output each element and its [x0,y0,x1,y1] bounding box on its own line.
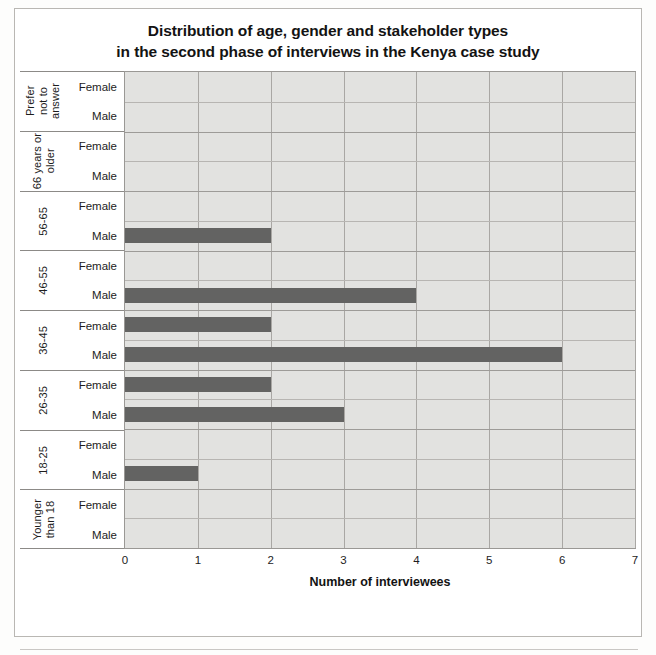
y-axis-group: 36-45FemaleMale [20,311,124,371]
horizontal-gridline [125,221,635,222]
horizontal-gridline [125,518,635,519]
x-axis-label: Number of interviewees [124,575,636,589]
y-axis-gender-labels: FemaleMale [66,490,124,550]
horizontal-gridline [125,340,635,341]
y-axis-gender-label: Female [66,132,117,161]
plot-area [124,71,636,549]
y-axis-gender-labels: FemaleMale [66,371,124,430]
x-axis-ticks: 01234567 [124,554,636,574]
horizontal-gridline [125,399,635,400]
bar [125,317,271,332]
y-axis-gender-label: Male [66,221,117,250]
y-axis-group: Younger than 18FemaleMale [20,490,124,550]
x-axis-tick-label: 3 [340,554,346,566]
y-axis-gender-label: Male [66,161,117,190]
chart-title-line-2: in the second phase of interviews in the… [15,41,641,62]
y-axis-gender-labels: FemaleMale [66,311,124,370]
y-axis-group-label-text: 46-55 [37,266,50,295]
horizontal-gridline [125,370,635,371]
horizontal-gridline [125,102,635,103]
x-axis-tick-label: 6 [559,554,565,566]
y-axis-gender-labels: FemaleMale [66,72,124,131]
y-axis-group: Prefer not to answerFemaleMale [20,72,124,132]
y-axis-group-label: Younger than 18 [20,490,66,550]
y-axis-group: 18-25FemaleMale [20,431,124,491]
chart-body: Prefer not to answerFemaleMale66 years o… [15,65,643,570]
y-axis-gender-label: Female [66,72,117,101]
y-axis-gender-label: Male [66,460,117,489]
x-axis-tick-label: 1 [195,554,201,566]
legend-divider [20,649,638,650]
horizontal-gridline [125,280,635,281]
y-axis-group-label: Prefer not to answer [20,72,66,131]
y-axis-gender-label: Female [66,311,117,340]
y-axis-gender-label: Female [66,371,117,400]
bar [125,228,271,243]
y-axis-gender-labels: FemaleMale [66,192,124,251]
y-axis-group-label: 18-25 [20,431,66,490]
horizontal-gridline [125,132,635,133]
y-axis-gender-label: Male [66,520,117,550]
bar [125,347,562,362]
y-axis-group: 26-35FemaleMale [20,371,124,431]
y-axis-gender-label: Male [66,101,117,130]
horizontal-gridline [125,310,635,311]
y-axis-gender-label: Female [66,192,117,221]
y-axis-gender-label: Male [66,340,117,369]
y-axis-group-label-text: 18-25 [37,446,50,475]
y-axis-gender-label: Female [66,490,117,520]
horizontal-gridline [125,191,635,192]
y-axis-group-label: 56-65 [20,192,66,251]
bar [125,466,198,481]
y-axis-group-label: 26-35 [20,371,66,430]
y-axis-group-label-text: Younger than 18 [31,499,56,540]
chart-figure: Distribution of age, gender and stakehol… [14,8,642,637]
horizontal-gridline [125,161,635,162]
chart-title-line-1: Distribution of age, gender and stakehol… [148,22,508,39]
y-axis-gender-label: Female [66,431,117,460]
vertical-gridline [635,72,636,548]
x-axis-tick-label: 4 [413,554,419,566]
horizontal-gridline [125,251,635,252]
x-axis-tick-label: 0 [122,554,128,566]
chart-title: Distribution of age, gender and stakehol… [15,9,641,62]
y-axis-gender-labels: FemaleMale [66,251,124,310]
x-axis-tick-label: 5 [486,554,492,566]
y-axis-group: 66 years or olderFemaleMale [20,132,124,192]
horizontal-gridline [125,489,635,490]
bar [125,377,271,392]
y-axis-gender-label: Male [66,400,117,429]
bar [125,407,344,422]
x-axis-tick-label: 2 [268,554,274,566]
y-axis-gender-label: Male [66,281,117,310]
y-axis-gender-labels: FemaleMale [66,431,124,490]
y-axis-group-label-text: 56-65 [37,207,50,236]
horizontal-gridline [125,459,635,460]
y-axis-gender-labels: FemaleMale [66,132,124,191]
y-axis-group-label-text: Prefer not to answer [24,83,62,119]
y-axis-group: 46-55FemaleMale [20,251,124,311]
y-axis-group-label-text: 26-35 [37,386,50,415]
y-axis-group-label: 66 years or older [20,132,66,191]
bar [125,288,416,303]
x-axis-tick-label: 7 [632,554,638,566]
y-axis-group-label: 36-45 [20,311,66,370]
y-axis-categories: Prefer not to answerFemaleMale66 years o… [20,71,124,549]
y-axis-gender-label: Female [66,251,117,280]
y-axis-group-label-text: 36-45 [37,326,50,355]
y-axis-group-label: 46-55 [20,251,66,310]
horizontal-gridline [125,429,635,430]
y-axis-group: 56-65FemaleMale [20,192,124,252]
y-axis-group-label-text: 66 years or older [31,133,56,189]
